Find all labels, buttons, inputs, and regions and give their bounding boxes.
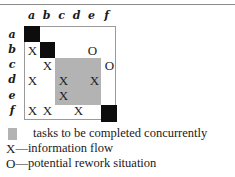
o-symbol: O	[6, 156, 15, 171]
row-label-d: d	[6, 72, 18, 87]
mark-b-e: O	[85, 43, 100, 58]
col-label-c: c	[54, 9, 69, 23]
mark-f-d: X	[71, 103, 86, 118]
diagonal-cell-a	[24, 26, 40, 42]
mark-f-b: X	[40, 103, 55, 118]
row-label-c: c	[6, 57, 18, 72]
x-symbol: X	[6, 141, 15, 156]
row-label-e: e	[6, 88, 18, 103]
top-rule	[0, 4, 235, 5]
diagonal-cell-b	[40, 42, 55, 58]
row-label-b: b	[6, 42, 18, 57]
legend-information-flow: X —information flow	[6, 141, 207, 156]
legend-rework: O —potential rework situation	[6, 156, 207, 171]
mark-e-c: X	[56, 88, 71, 103]
mark-d-c: X	[56, 73, 71, 88]
row-label-f: f	[6, 103, 18, 118]
legend-o-label: —potential rework situation	[15, 156, 156, 171]
legend-x-label: —information flow	[15, 141, 113, 156]
col-label-e: e	[84, 9, 99, 23]
col-label-f: f	[99, 9, 114, 23]
diagonal-cell-f	[101, 105, 117, 122]
row-label-a: a	[6, 27, 18, 42]
legend-concurrent: tasks to be completed concurrently	[6, 126, 207, 141]
mark-d-e: X	[87, 73, 102, 88]
legend-concurrent-label: tasks to be completed concurrently	[33, 126, 207, 141]
grey-swatch-icon	[8, 128, 17, 140]
mark-f-a: X	[25, 103, 40, 118]
mark-c-b: X	[40, 58, 55, 73]
mark-c-f: O	[102, 58, 117, 73]
col-label-d: d	[69, 9, 84, 23]
mark-b-a: X	[25, 43, 40, 58]
col-label-a: a	[24, 9, 39, 23]
col-label-b: b	[39, 9, 54, 23]
mark-d-a: X	[25, 73, 40, 88]
legend: tasks to be completed concurrently X —in…	[6, 126, 207, 171]
